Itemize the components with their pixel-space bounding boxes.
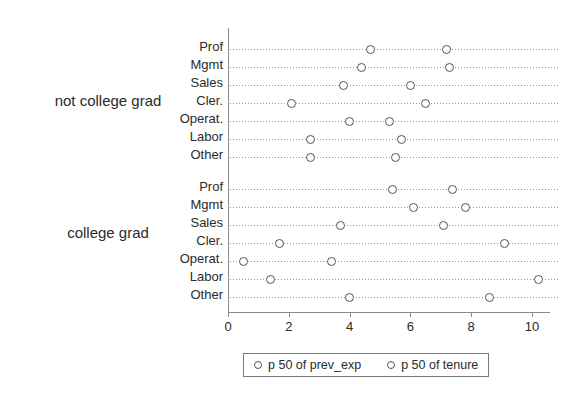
group-label-not-college-grad: not college grad: [8, 92, 208, 109]
data-point-prev_exp: [345, 293, 354, 302]
data-point-tenure: [439, 221, 448, 230]
chart-figure: not college grad college grad ProfMgmtSa…: [0, 0, 575, 396]
data-point-tenure: [406, 81, 415, 90]
group-label-college-grad: college grad: [8, 224, 208, 241]
chart-row: Operat.: [228, 253, 558, 271]
data-point-tenure: [397, 135, 406, 144]
chart-row: Cler.: [228, 95, 558, 113]
gridline: [230, 139, 558, 140]
x-tick-label: 2: [269, 319, 309, 334]
data-point-prev_exp: [345, 117, 354, 126]
x-tick-label: 10: [512, 319, 552, 334]
data-point-prev_exp: [306, 153, 315, 162]
chart-row: Prof: [228, 41, 558, 59]
x-tick-label: 8: [451, 319, 491, 334]
category-label-operat: Operat.: [180, 111, 223, 126]
chart-row: Labor: [228, 271, 558, 289]
x-tick-label: 0: [208, 319, 248, 334]
data-point-prev_exp: [409, 203, 418, 212]
chart-row: Cler.: [228, 235, 558, 253]
gridline: [230, 121, 558, 122]
gridline: [230, 261, 558, 262]
data-point-prev_exp: [339, 81, 348, 90]
chart-row: Other: [228, 289, 558, 307]
data-point-prev_exp: [357, 63, 366, 72]
chart-row: Mgmt: [228, 199, 558, 217]
gridline: [230, 49, 558, 50]
data-point-tenure: [461, 203, 470, 212]
chart-row: Prof: [228, 181, 558, 199]
data-point-prev_exp: [306, 135, 315, 144]
data-point-tenure: [442, 45, 451, 54]
x-tick: [350, 312, 351, 317]
category-label-mgmt: Mgmt: [191, 197, 224, 212]
legend-label-tenure: p 50 of tenure: [401, 358, 478, 372]
x-tick: [228, 312, 229, 317]
x-tick: [532, 312, 533, 317]
gridline: [230, 85, 558, 86]
data-point-prev_exp: [287, 99, 296, 108]
data-point-tenure: [534, 275, 543, 284]
category-label-labor: Labor: [190, 129, 223, 144]
category-label-other: Other: [190, 147, 223, 162]
category-label-labor: Labor: [190, 269, 223, 284]
chart-row: Sales: [228, 77, 558, 95]
category-label-mgmt: Mgmt: [191, 57, 224, 72]
data-point-prev_exp: [366, 45, 375, 54]
category-label-other: Other: [190, 287, 223, 302]
gridline: [230, 207, 558, 208]
open-circle-icon: [387, 361, 395, 369]
data-point-tenure: [485, 293, 494, 302]
category-label-operat: Operat.: [180, 251, 223, 266]
data-point-tenure: [421, 99, 430, 108]
data-point-prev_exp: [388, 185, 397, 194]
data-point-tenure: [500, 239, 509, 248]
open-circle-icon: [254, 361, 262, 369]
data-point-tenure: [327, 257, 336, 266]
gridline: [230, 103, 558, 104]
category-label-cler: Cler.: [196, 93, 223, 108]
chart-row: Other: [228, 149, 558, 167]
category-label-cler: Cler.: [196, 233, 223, 248]
gridline: [230, 297, 558, 298]
chart-row: Labor: [228, 131, 558, 149]
data-point-prev_exp: [336, 221, 345, 230]
legend-entry-prev-exp: p 50 of prev_exp: [254, 358, 361, 372]
data-point-prev_exp: [239, 257, 248, 266]
gridline: [230, 279, 558, 280]
data-point-prev_exp: [275, 239, 284, 248]
data-point-tenure: [448, 185, 457, 194]
legend-entry-tenure: p 50 of tenure: [387, 358, 478, 372]
data-point-tenure: [385, 117, 394, 126]
x-tick: [289, 312, 290, 317]
chart-legend: p 50 of prev_exp p 50 of tenure: [243, 353, 489, 377]
x-tick: [410, 312, 411, 317]
data-point-prev_exp: [266, 275, 275, 284]
x-tick-label: 4: [330, 319, 370, 334]
chart-row: Operat.: [228, 113, 558, 131]
data-point-tenure: [445, 63, 454, 72]
legend-label-prev-exp: p 50 of prev_exp: [268, 358, 361, 372]
category-label-sales: Sales: [190, 215, 223, 230]
x-tick-label: 6: [390, 319, 430, 334]
chart-row: Mgmt: [228, 59, 558, 77]
plot-area: ProfMgmtSalesCler.Operat.LaborOtherProfM…: [228, 28, 558, 312]
x-tick: [471, 312, 472, 317]
category-label-sales: Sales: [190, 75, 223, 90]
x-axis-line: [228, 312, 550, 313]
data-point-tenure: [391, 153, 400, 162]
gridline: [230, 67, 558, 68]
gridline: [230, 225, 558, 226]
category-label-prof: Prof: [199, 39, 223, 54]
category-label-prof: Prof: [199, 179, 223, 194]
chart-row: Sales: [228, 217, 558, 235]
